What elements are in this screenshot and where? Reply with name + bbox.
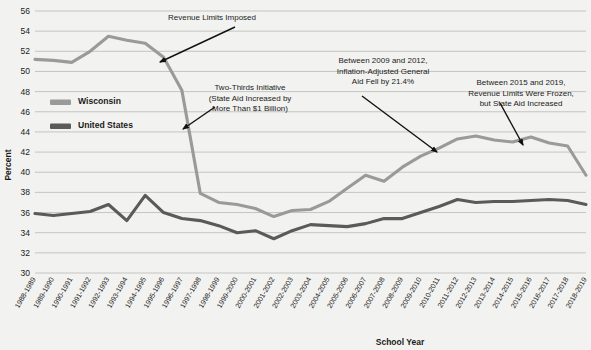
annotation-two-thirds: Two-Thirds Initiative(State Aid Increase… [183,83,291,129]
legend-swatch-wisconsin [50,100,71,106]
line-chart: 3032343638404244464850525456 1988-198919… [0,0,591,350]
x-axis-title: School Year [376,337,425,347]
y-axis-title: Percent [3,149,13,180]
annotations-group: Revenue Limits ImposedTwo-Thirds Initiat… [160,13,574,152]
y-tick-label: 46 [21,107,31,117]
legend-label-wisconsin: Wisconsin [78,96,121,106]
legend: WisconsinUnited States [50,96,133,130]
y-tick-label: 54 [21,26,31,36]
y-tick-label: 50 [21,66,31,76]
y-tick-label: 42 [21,147,31,157]
annotation-inflation-adjusted: Between 2009 and 2012,Inflation-Adjusted… [337,56,437,152]
y-tick-label: 32 [21,248,31,258]
annotation-arrow [362,96,437,152]
y-tick-label: 34 [21,228,31,238]
annotation-line: Between 2015 and 2019, [477,78,566,87]
chart-container: 3032343638404244464850525456 1988-198919… [0,0,591,350]
y-tick-label: 52 [21,46,31,56]
x-axis-tick-labels: 1988-19891989-19901990-19911991-19921992… [13,276,589,310]
annotation-line: More Than $1 Billion) [212,104,288,113]
annotation-arrow [500,103,523,145]
y-tick-label: 48 [21,87,31,97]
y-tick-label: 36 [21,208,31,218]
legend-label-united-states: United States [78,120,133,130]
annotation-line: (State Aid Increased by [209,94,292,103]
y-tick-label: 38 [21,187,31,197]
annotation-line: Between 2009 and 2012, [339,56,428,65]
annotation-line: Aid Fell by 21.4% [352,77,414,86]
annotation-line: Revenue Limits Imposed [168,13,256,22]
series-lines-group [35,36,586,239]
annotation-arrow [160,27,235,62]
annotation-line: Two-Thirds Initiative [214,83,286,92]
y-axis-tick-labels: 3032343638404244464850525456 [21,6,31,278]
series-line-united-states [35,195,586,238]
y-tick-label: 56 [21,6,31,16]
annotation-line: Inflation-Adjusted General [337,67,430,76]
y-tick-label: 44 [21,127,31,137]
annotation-line: Revenue Limits Were Frozen, [468,89,574,98]
annotation-revenue-limits: Revenue Limits Imposed [160,13,256,62]
legend-swatch-united-states [50,124,71,130]
annotation-line: but State Aid Increased [480,99,563,108]
y-tick-label: 40 [21,167,31,177]
